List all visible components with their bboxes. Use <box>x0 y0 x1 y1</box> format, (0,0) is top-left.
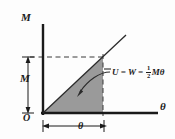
horizontal-dimension-label: θ <box>78 121 83 131</box>
origin-label: O <box>23 113 30 123</box>
x-axis-label: θ <box>160 101 166 112</box>
one-half-fraction: 12 <box>146 65 151 79</box>
work-energy-diagram: M M O θ θ U = W = 12Mθ <box>0 0 175 139</box>
annotation-trailing-text: Mθ <box>152 67 165 77</box>
energy-annotation: U = W = 12Mθ <box>112 65 164 79</box>
vertical-dimension-label: M <box>20 73 30 84</box>
annotation-lead-text: U = W = <box>112 67 145 77</box>
fraction-denominator: 2 <box>146 73 151 80</box>
y-axis-label: M <box>21 12 31 23</box>
